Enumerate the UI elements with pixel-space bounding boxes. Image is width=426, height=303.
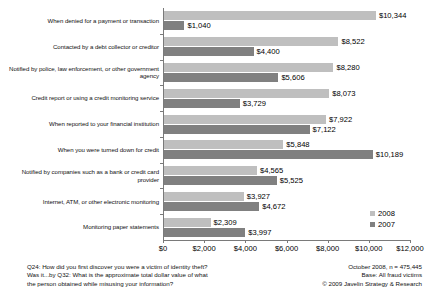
- legend-swatch-icon-2007: [370, 222, 375, 227]
- bar-2007[interactable]: [163, 73, 278, 82]
- bar-value-label: $3,729: [243, 99, 266, 108]
- category-tick: [160, 85, 163, 86]
- value-tick: [163, 240, 164, 243]
- category-tick: [160, 34, 163, 35]
- category-tick: [160, 60, 163, 61]
- category-label: Credit report or using a credit monitori…: [6, 85, 159, 111]
- category-tick: [160, 188, 163, 189]
- bar-2008[interactable]: [163, 11, 376, 20]
- bar-2007[interactable]: [163, 125, 310, 134]
- bar-value-label: $4,565: [260, 166, 283, 175]
- value-axis-line: [163, 8, 164, 240]
- bar-2008[interactable]: [163, 37, 338, 46]
- bar-2008[interactable]: [163, 218, 211, 227]
- chart-legend: 2008 2007: [370, 208, 395, 230]
- bar-value-label: $7,922: [329, 115, 352, 124]
- category-label-text: When denied for a payment or transaction: [48, 17, 159, 25]
- bar-2007[interactable]: [163, 47, 254, 56]
- category-label: When you were turned down for credit: [6, 137, 159, 163]
- category-label-text: When you were turned down for credit: [58, 146, 159, 154]
- footer-question-text: Q24: How did you first discover you were…: [27, 263, 237, 288]
- bar-value-label: $5,525: [280, 176, 303, 185]
- legend-swatch-icon-2008: [370, 211, 375, 216]
- value-tick: [245, 240, 246, 243]
- category-tick: [160, 137, 163, 138]
- footer-left-line-1: Q24: How did you first discover you were…: [27, 263, 237, 271]
- bar-value-label: $2,309: [214, 218, 237, 227]
- bar-value-label: $3,927: [247, 192, 270, 201]
- footer-right-line-2: Base: All fraud victims: [222, 271, 422, 279]
- plot-area: $10,344$1,040$8,522$4,400$8,280$5,606$8,…: [163, 8, 410, 240]
- bar-2008[interactable]: [163, 192, 244, 201]
- bar-2007[interactable]: [163, 21, 184, 30]
- bar-value-label: $3,997: [248, 228, 271, 237]
- bar-value-label: $8,280: [336, 63, 359, 72]
- category-label: Monitoring paper statements: [6, 214, 159, 240]
- value-tick: [328, 240, 329, 243]
- bar-value-label: $4,400: [257, 47, 280, 56]
- category-label: Internet, ATM, or other electronic monit…: [6, 188, 159, 214]
- value-tick: [410, 240, 411, 243]
- category-label: Contacted by a debt collector or credito…: [6, 34, 159, 60]
- category-label-text: Monitoring paper statements: [83, 223, 159, 231]
- category-label: When denied for a payment or transaction: [6, 8, 159, 34]
- legend-label-2008: 2008: [378, 209, 395, 218]
- value-tick: [287, 240, 288, 243]
- bar-2008[interactable]: [163, 115, 326, 124]
- chart-container: When denied for a payment or transaction…: [0, 0, 426, 303]
- category-tick: [160, 163, 163, 164]
- value-tick-label: $12,000: [385, 244, 426, 253]
- bar-value-label: $1,040: [187, 21, 210, 30]
- value-tick: [369, 240, 370, 243]
- category-label: Notified by companies such as a bank or …: [6, 163, 159, 189]
- bar-value-label: $8,522: [341, 37, 364, 46]
- bar-2008[interactable]: [163, 63, 333, 72]
- category-label-text: When reported to your financial institut…: [49, 120, 159, 128]
- bar-value-label: $5,848: [286, 140, 309, 149]
- bar-value-label: $7,122: [313, 125, 336, 134]
- bar-2008[interactable]: [163, 166, 257, 175]
- category-label-text: Notified by police, law enforcement, or …: [6, 65, 159, 80]
- footer-right-line-3: © 2009 Javelin Strategy & Research: [222, 280, 422, 288]
- bar-value-label: $4,672: [262, 202, 285, 211]
- bar-2008[interactable]: [163, 89, 329, 98]
- footer-right-line-1: October 2008, n = 475,445: [222, 263, 422, 271]
- bar-2007[interactable]: [163, 150, 373, 159]
- bar-value-label: $5,606: [281, 73, 304, 82]
- category-label: Notified by police, law enforcement, or …: [6, 60, 159, 86]
- legend-label-2007: 2007: [378, 220, 395, 229]
- category-tick: [160, 214, 163, 215]
- legend-item-2007[interactable]: 2007: [370, 219, 395, 230]
- category-label-text: Credit report or using a credit monitori…: [31, 94, 159, 102]
- bar-2007[interactable]: [163, 202, 259, 211]
- category-label: When reported to your financial institut…: [6, 111, 159, 137]
- bar-2007[interactable]: [163, 228, 245, 237]
- category-axis-labels: When denied for a payment or transaction…: [6, 8, 159, 240]
- bar-value-label: $10,344: [379, 11, 406, 20]
- category-label-text: Notified by companies such as a bank or …: [6, 168, 159, 183]
- footer-source-text: October 2008, n = 475,445 Base: All frau…: [222, 263, 422, 288]
- category-label-text: Contacted by a debt collector or credito…: [53, 43, 159, 51]
- value-tick: [204, 240, 205, 243]
- bar-value-label: $8,073: [332, 89, 355, 98]
- footer-left-line-2: Was it...by Q32: What is the approximate…: [27, 271, 237, 279]
- bar-value-label: $10,189: [376, 150, 403, 159]
- chart-footer: Q24: How did you first discover you were…: [0, 263, 426, 299]
- bar-2008[interactable]: [163, 140, 283, 149]
- legend-item-2008[interactable]: 2008: [370, 208, 395, 219]
- category-tick: [160, 111, 163, 112]
- category-label-text: Internet, ATM, or other electronic monit…: [43, 198, 159, 206]
- bar-2007[interactable]: [163, 176, 277, 185]
- bar-2007[interactable]: [163, 99, 240, 108]
- footer-left-line-3: the person obtained while misusing your …: [27, 280, 237, 288]
